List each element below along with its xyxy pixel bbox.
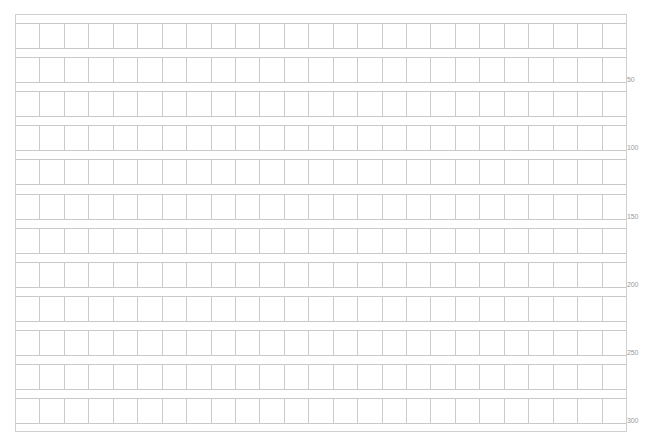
manuscript-cell[interactable] (529, 365, 553, 389)
manuscript-cell[interactable] (480, 331, 504, 355)
manuscript-cell[interactable] (554, 58, 578, 82)
manuscript-cell[interactable] (309, 331, 333, 355)
manuscript-cell[interactable] (334, 331, 358, 355)
manuscript-cell[interactable] (529, 229, 553, 253)
manuscript-cell[interactable] (480, 160, 504, 184)
manuscript-cell[interactable] (505, 92, 529, 116)
manuscript-cell[interactable] (529, 58, 553, 82)
manuscript-cell[interactable] (16, 58, 40, 82)
manuscript-cell[interactable] (334, 195, 358, 219)
manuscript-cell[interactable] (236, 297, 260, 321)
manuscript-cell[interactable] (480, 126, 504, 150)
manuscript-cell[interactable] (334, 297, 358, 321)
manuscript-cell[interactable] (358, 126, 382, 150)
manuscript-cell[interactable] (578, 297, 602, 321)
manuscript-cell[interactable] (65, 58, 89, 82)
manuscript-cell[interactable] (89, 229, 113, 253)
manuscript-cell[interactable] (40, 229, 64, 253)
manuscript-cell[interactable] (187, 24, 211, 48)
manuscript-cell[interactable] (212, 160, 236, 184)
manuscript-cell[interactable] (285, 297, 309, 321)
manuscript-cell[interactable] (407, 229, 431, 253)
manuscript-cell[interactable] (407, 160, 431, 184)
manuscript-cell[interactable] (285, 58, 309, 82)
manuscript-cell[interactable] (285, 24, 309, 48)
manuscript-cell[interactable] (236, 92, 260, 116)
manuscript-cell[interactable] (89, 263, 113, 287)
manuscript-cell[interactable] (431, 331, 455, 355)
manuscript-cell[interactable] (603, 160, 626, 184)
manuscript-cell[interactable] (603, 399, 626, 423)
manuscript-cell[interactable] (260, 399, 284, 423)
manuscript-cell[interactable] (89, 160, 113, 184)
manuscript-cell[interactable] (138, 229, 162, 253)
manuscript-cell[interactable] (187, 195, 211, 219)
manuscript-cell[interactable] (554, 24, 578, 48)
manuscript-cell[interactable] (358, 399, 382, 423)
manuscript-cell[interactable] (212, 58, 236, 82)
manuscript-cell[interactable] (358, 263, 382, 287)
manuscript-cell[interactable] (40, 24, 64, 48)
manuscript-cell[interactable] (529, 126, 553, 150)
manuscript-cell[interactable] (236, 399, 260, 423)
manuscript-cell[interactable] (163, 297, 187, 321)
manuscript-cell[interactable] (456, 263, 480, 287)
manuscript-cell[interactable] (89, 24, 113, 48)
manuscript-cell[interactable] (16, 160, 40, 184)
manuscript-cell[interactable] (334, 58, 358, 82)
manuscript-cell[interactable] (578, 263, 602, 287)
manuscript-cell[interactable] (383, 399, 407, 423)
manuscript-cell[interactable] (407, 126, 431, 150)
manuscript-cell[interactable] (138, 365, 162, 389)
manuscript-cell[interactable] (138, 24, 162, 48)
manuscript-cell[interactable] (260, 160, 284, 184)
manuscript-cell[interactable] (358, 24, 382, 48)
manuscript-cell[interactable] (334, 160, 358, 184)
manuscript-cell[interactable] (260, 92, 284, 116)
manuscript-cell[interactable] (163, 365, 187, 389)
manuscript-cell[interactable] (114, 24, 138, 48)
manuscript-cell[interactable] (456, 297, 480, 321)
manuscript-cell[interactable] (285, 229, 309, 253)
manuscript-cell[interactable] (40, 297, 64, 321)
manuscript-cell[interactable] (480, 263, 504, 287)
manuscript-cell[interactable] (578, 24, 602, 48)
manuscript-cell[interactable] (383, 229, 407, 253)
manuscript-cell[interactable] (554, 160, 578, 184)
manuscript-cell[interactable] (16, 263, 40, 287)
manuscript-cell[interactable] (578, 58, 602, 82)
manuscript-cell[interactable] (309, 365, 333, 389)
manuscript-cell[interactable] (89, 365, 113, 389)
manuscript-cell[interactable] (187, 160, 211, 184)
manuscript-cell[interactable] (456, 126, 480, 150)
manuscript-cell[interactable] (260, 263, 284, 287)
manuscript-cell[interactable] (505, 297, 529, 321)
manuscript-cell[interactable] (407, 331, 431, 355)
manuscript-cell[interactable] (40, 365, 64, 389)
manuscript-cell[interactable] (383, 297, 407, 321)
manuscript-cell[interactable] (89, 331, 113, 355)
manuscript-cell[interactable] (505, 195, 529, 219)
manuscript-cell[interactable] (603, 263, 626, 287)
manuscript-cell[interactable] (358, 229, 382, 253)
manuscript-cell[interactable] (163, 195, 187, 219)
manuscript-cell[interactable] (407, 195, 431, 219)
manuscript-cell[interactable] (187, 399, 211, 423)
manuscript-cell[interactable] (603, 58, 626, 82)
manuscript-cell[interactable] (480, 297, 504, 321)
manuscript-cell[interactable] (40, 160, 64, 184)
manuscript-cell[interactable] (358, 297, 382, 321)
manuscript-cell[interactable] (505, 263, 529, 287)
manuscript-cell[interactable] (65, 263, 89, 287)
manuscript-cell[interactable] (163, 126, 187, 150)
manuscript-cell[interactable] (578, 160, 602, 184)
manuscript-cell[interactable] (236, 331, 260, 355)
manuscript-cell[interactable] (16, 24, 40, 48)
manuscript-cell[interactable] (505, 24, 529, 48)
manuscript-cell[interactable] (65, 160, 89, 184)
manuscript-cell[interactable] (114, 297, 138, 321)
manuscript-cell[interactable] (212, 195, 236, 219)
manuscript-cell[interactable] (383, 365, 407, 389)
manuscript-cell[interactable] (480, 365, 504, 389)
manuscript-cell[interactable] (212, 92, 236, 116)
